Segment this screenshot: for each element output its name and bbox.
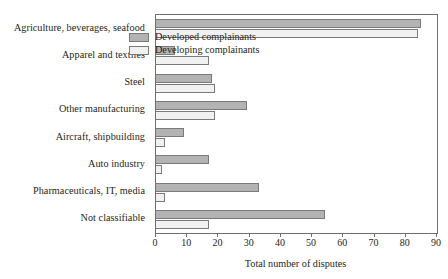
- legend-swatch-developed: [129, 33, 149, 42]
- category-label: Pharmaceuticals, IT, media: [0, 178, 150, 205]
- bar-developing: [156, 84, 215, 93]
- bar-group: [156, 179, 437, 206]
- bar-chart: Agriculture, beverages, seafoodApparel a…: [0, 0, 448, 279]
- bar-developing: [156, 111, 215, 120]
- bar-developing: [156, 138, 165, 147]
- legend-item: Developing complainants: [129, 45, 259, 55]
- bar-group: [156, 97, 437, 124]
- x-tick-label: 80: [400, 238, 410, 248]
- bar-developed: [156, 128, 184, 137]
- x-tick-label: 70: [369, 238, 379, 248]
- bar-developed: [156, 101, 247, 110]
- x-axis-title: Total number of disputes: [155, 259, 436, 269]
- category-label: Agriculture, beverages, seafood: [0, 14, 150, 41]
- bar-developed: [156, 19, 421, 28]
- bar-developed: [156, 155, 209, 164]
- bar-developed: [156, 74, 212, 83]
- bar-group: [156, 70, 437, 97]
- x-tick-label: 40: [275, 238, 285, 248]
- bar-group: [156, 206, 437, 233]
- legend-label: Developed complainants: [155, 32, 256, 42]
- legend: Developed complainantsDeveloping complai…: [129, 32, 259, 55]
- legend-swatch-developing: [129, 46, 149, 55]
- category-label: Apparel and textiles: [0, 41, 150, 68]
- bar-developing: [156, 56, 209, 65]
- legend-item: Developed complainants: [129, 32, 259, 42]
- x-tick-label: 0: [153, 238, 158, 248]
- bar-group: [156, 124, 437, 151]
- category-axis: Agriculture, beverages, seafoodApparel a…: [0, 14, 150, 232]
- category-label: Other manufacturing: [0, 96, 150, 123]
- x-tick-label: 60: [337, 238, 347, 248]
- legend-label: Developing complainants: [155, 45, 259, 55]
- category-label: Not classifiable: [0, 205, 150, 232]
- bar-developing: [156, 220, 209, 229]
- bar-group: [156, 151, 437, 178]
- x-tick-label: 30: [244, 238, 254, 248]
- category-label: Steel: [0, 69, 150, 96]
- category-label: Auto industry: [0, 150, 150, 177]
- bar-developed: [156, 210, 325, 219]
- category-label: Aircraft, shipbuilding: [0, 123, 150, 150]
- x-tick-label: 50: [306, 238, 316, 248]
- bar-developing: [156, 193, 165, 202]
- x-tick-label: 90: [431, 238, 441, 248]
- x-axis: 0102030405060708090: [155, 233, 436, 249]
- bar-developing: [156, 165, 162, 174]
- bar-developed: [156, 183, 259, 192]
- x-tick-label: 20: [212, 238, 222, 248]
- x-tick-label: 10: [181, 238, 191, 248]
